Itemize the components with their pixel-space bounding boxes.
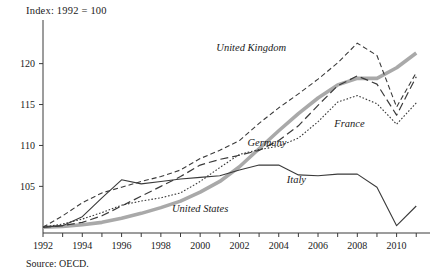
y-tick-label: 110 (20, 140, 35, 151)
x-tick-label: 1992 (33, 240, 53, 251)
x-tick-label: 2004 (269, 240, 289, 251)
y-tick-label: 120 (20, 58, 35, 69)
y-tick-label: 105 (20, 181, 35, 192)
x-tick-label: 1996 (112, 240, 132, 251)
series-annotations: United StatesUnited KingdomGermanyFrance… (172, 42, 365, 214)
series-label-united-kingdom: United Kingdom (216, 42, 286, 53)
source-note: Source: OECD. (26, 258, 89, 269)
x-tick-label: 2000 (190, 240, 210, 251)
x-tick-label: 2002 (229, 240, 249, 251)
x-axis: 1992199419961998200020022004200620082010 (33, 233, 430, 251)
x-tick-label: 1998 (151, 240, 171, 251)
x-tick-label: 2010 (387, 240, 407, 251)
series-lines (43, 43, 416, 227)
x-tick-label: 2008 (347, 240, 367, 251)
figure-container: Index: 1992 = 100 105110115120 199219941… (0, 0, 438, 278)
x-tick-label: 2006 (308, 240, 328, 251)
y-tick-label: 115 (20, 99, 35, 110)
line-chart: 105110115120 199219941996199820002002200… (0, 0, 438, 278)
series-label-france: France (333, 118, 365, 129)
series-line (43, 43, 416, 227)
series-line (43, 96, 416, 228)
y-axis: 105110115120 (20, 20, 43, 233)
series-line (43, 76, 416, 227)
series-label-germany: Germany (247, 137, 286, 148)
series-label-italy: Italy (286, 174, 307, 185)
series-label-united-states: United States (172, 203, 228, 214)
x-tick-label: 1994 (72, 240, 92, 251)
